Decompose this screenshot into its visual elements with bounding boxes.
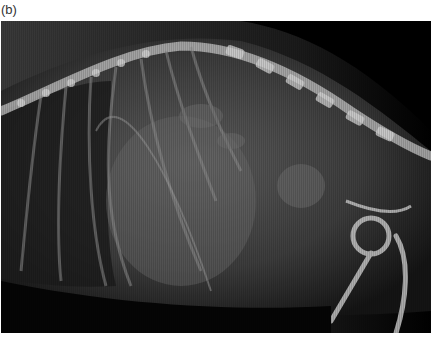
- radiograph-image: [1, 21, 431, 333]
- panel-label: (b): [1, 2, 17, 18]
